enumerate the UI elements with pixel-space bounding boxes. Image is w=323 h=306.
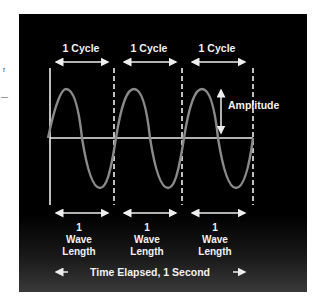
svg-text:Wave: Wave bbox=[66, 234, 92, 245]
svg-text:Wave: Wave bbox=[134, 234, 160, 245]
cycle-label-1: 1 Cycle bbox=[63, 42, 100, 54]
time-elapsed-label: Time Elapsed, 1 Second bbox=[90, 266, 210, 278]
cycle-label-3: 1 Cycle bbox=[199, 42, 236, 54]
wave-diagram: 1 Cycle 1 Cycle 1 Cycle Amplitude 1 Wave… bbox=[0, 0, 323, 306]
svg-text:1: 1 bbox=[76, 222, 82, 233]
svg-text:Wave: Wave bbox=[202, 234, 228, 245]
cycle-label-2: 1 Cycle bbox=[131, 42, 168, 54]
svg-text:1: 1 bbox=[144, 222, 150, 233]
wavelength-label-2: 1 Wave Length bbox=[130, 222, 163, 257]
wavelength-label-3: 1 Wave Length bbox=[198, 222, 231, 257]
amplitude-label: Amplitude bbox=[228, 99, 279, 111]
svg-text:Length: Length bbox=[198, 246, 231, 257]
svg-text:Length: Length bbox=[130, 246, 163, 257]
svg-text:1: 1 bbox=[212, 222, 218, 233]
wavelength-label-1: 1 Wave Length bbox=[62, 222, 95, 257]
svg-text:Length: Length bbox=[62, 246, 95, 257]
